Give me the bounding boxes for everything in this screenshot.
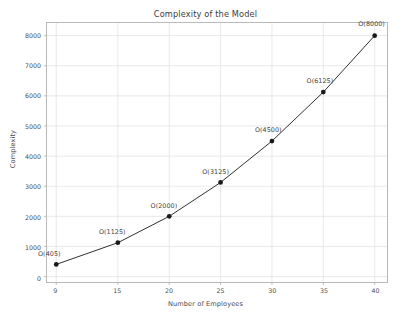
y-tick-label: 5000: [25, 122, 41, 129]
y-tick-label: 0: [37, 274, 41, 281]
x-tick-label: 15: [113, 287, 121, 294]
plot-area: [46, 22, 388, 283]
data-point: [372, 33, 377, 38]
data-point: [115, 240, 120, 245]
x-tick-label: 35: [320, 287, 328, 294]
y-axis-ticks: 010002000300040005000600070008000: [0, 22, 41, 283]
series-line: [56, 36, 374, 265]
data-point: [218, 180, 223, 185]
data-point: [54, 262, 59, 267]
x-axis-label: Number of Employees: [0, 300, 411, 308]
y-tick-label: 1000: [25, 244, 41, 251]
y-tick-label: 7000: [25, 62, 41, 69]
x-tick-label: 30: [268, 287, 276, 294]
x-tick-label: 40: [372, 287, 380, 294]
tick-marks: [44, 36, 375, 285]
y-tick-label: 8000: [25, 31, 41, 38]
grid-lines: [47, 23, 387, 282]
data-point: [270, 139, 275, 144]
data-point: [321, 90, 326, 95]
x-tick-label: 9: [53, 287, 57, 294]
x-tick-label: 25: [217, 287, 225, 294]
chart-title: Complexity of the Model: [0, 9, 411, 19]
series-markers: [54, 33, 377, 266]
plot-canvas: [47, 23, 387, 282]
y-tick-label: 2000: [25, 213, 41, 220]
data-point: [167, 214, 172, 219]
y-tick-label: 6000: [25, 92, 41, 99]
chart-figure: Complexity of the Model 0100020003000400…: [0, 0, 411, 318]
x-axis-ticks: 9152025303540: [46, 287, 388, 299]
x-tick-label: 20: [165, 287, 173, 294]
y-axis-label: Complexity: [9, 119, 17, 179]
y-tick-label: 3000: [25, 183, 41, 190]
y-tick-label: 4000: [25, 153, 41, 160]
